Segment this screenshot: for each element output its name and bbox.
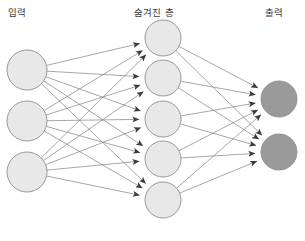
edge-i1-to-h2	[47, 71, 139, 76]
network-graph-canvas	[0, 0, 305, 241]
nodes-group	[7, 20, 297, 218]
node-input-i1	[7, 50, 47, 90]
edge-i3-to-h4	[47, 161, 139, 170]
edge-h1-to-o1	[179, 46, 258, 87]
node-input-i2	[7, 101, 47, 141]
node-hidden-h3	[145, 101, 181, 137]
edge-i1-to-h5	[41, 84, 145, 184]
edge-i3-to-h5	[47, 176, 140, 195]
node-hidden-h5	[145, 182, 181, 218]
edge-i2-to-h1	[44, 51, 142, 111]
edge-i1-to-h1	[46, 44, 139, 66]
edge-h3-to-o2	[180, 124, 256, 145]
edge-i3-to-h1	[41, 55, 146, 158]
edge-h4-to-o2	[181, 153, 255, 157]
edge-h4-to-o1	[179, 110, 258, 151]
edge-i2-to-h3	[47, 119, 139, 120]
node-output-o2	[261, 134, 297, 170]
edge-h2-to-o2	[178, 88, 259, 139]
node-hidden-h1	[145, 20, 181, 56]
neural-network-diagram: 입력 숨겨진 층 출력	[0, 0, 305, 241]
node-output-o1	[261, 81, 297, 117]
node-hidden-h2	[145, 60, 181, 96]
edge-i1-to-h4	[44, 81, 143, 146]
edge-h3-to-o1	[181, 103, 256, 116]
edge-i2-to-h2	[46, 85, 140, 115]
node-hidden-h4	[145, 141, 181, 177]
edge-i1-to-h3	[46, 77, 141, 111]
edge-h2-to-o1	[181, 81, 256, 95]
edge-h5-to-o2	[180, 161, 257, 193]
node-input-i3	[7, 152, 47, 192]
edge-h1-to-o2	[176, 51, 262, 136]
